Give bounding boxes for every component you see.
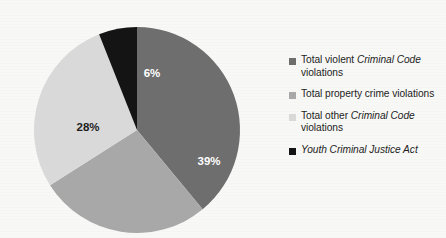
- pie-slice-label: 6%: [144, 67, 161, 79]
- legend-item-label: Total property crime violations: [301, 88, 434, 101]
- pie-slice-label: 27%: [144, 236, 167, 238]
- legend-item-label: Youth Criminal Justice Act: [301, 144, 418, 157]
- legend-item[interactable]: Total violent Criminal Code violations: [289, 54, 444, 79]
- pie-chart: 39%27%28%6%: [34, 27, 240, 233]
- legend-item-label: Total violent Criminal Code violations: [301, 54, 444, 79]
- pie-slice-group: [34, 27, 240, 233]
- pie-chart-figure: 39%27%28%6% Total violent Criminal Code …: [0, 0, 446, 238]
- pie-slice-label: 39%: [197, 155, 220, 167]
- pie-slice-label: 28%: [76, 121, 99, 133]
- legend: Total violent Criminal Code violationsTo…: [289, 54, 444, 157]
- legend-swatch-icon: [289, 92, 296, 99]
- legend-swatch-icon: [289, 114, 296, 121]
- legend-swatch-icon: [289, 148, 296, 155]
- legend-item-label: Total other Criminal Code violations: [301, 110, 444, 135]
- legend-item[interactable]: Youth Criminal Justice Act: [289, 144, 444, 157]
- legend-swatch-icon: [289, 58, 296, 65]
- pie-chart-svg: 39%27%28%6%: [34, 27, 240, 233]
- legend-item[interactable]: Total property crime violations: [289, 88, 444, 101]
- legend-item[interactable]: Total other Criminal Code violations: [289, 110, 444, 135]
